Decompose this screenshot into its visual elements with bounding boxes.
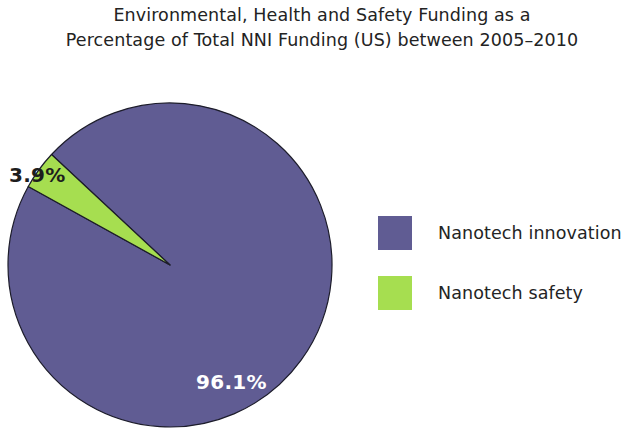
legend-label-nanotech-innovation: Nanotech innovation (438, 223, 622, 243)
pie-chart-svg (0, 60, 360, 434)
legend-label-nanotech-safety: Nanotech safety (438, 283, 583, 303)
legend-item-nanotech-safety[interactable]: Nanotech safety (378, 275, 644, 311)
pie-chart-plot-area: 3.9% 96.1% (0, 60, 360, 434)
pie-value-label-nanotech-innovation: 96.1% (196, 370, 267, 394)
pie-value-label-nanotech-safety: 3.9% (9, 163, 66, 187)
chart-title: Environmental, Health and Safety Funding… (0, 3, 644, 53)
legend-swatch-nanotech-safety (378, 276, 412, 310)
chart-title-line-2: Percentage of Total NNI Funding (US) bet… (0, 28, 644, 53)
chart-title-line-1: Environmental, Health and Safety Funding… (0, 3, 644, 28)
legend-swatch-nanotech-innovation (378, 216, 412, 250)
legend-item-nanotech-innovation[interactable]: Nanotech innovation (378, 215, 644, 251)
chart-legend: Nanotech innovation Nanotech safety (378, 215, 644, 335)
